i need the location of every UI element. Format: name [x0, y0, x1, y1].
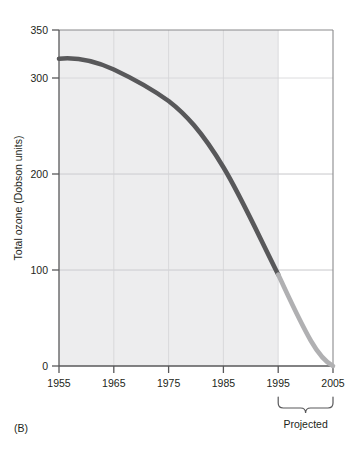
y-tick-label-300: 300	[30, 72, 48, 84]
x-tick-label-1995: 1995	[267, 377, 291, 389]
y-tick-label-350: 350	[30, 24, 48, 36]
x-axis-ticks	[59, 366, 333, 373]
panel-label: (B)	[14, 422, 28, 434]
y-axis-title: Total ozone (Dobson units)	[12, 136, 24, 261]
ozone-depletion-line-chart: 350 300 200 100 0 1955 1965 1975 1985 19…	[0, 0, 362, 455]
y-axis-ticks	[52, 30, 59, 366]
x-tick-label-2005: 2005	[321, 377, 345, 389]
y-tick-label-100: 100	[30, 264, 48, 276]
projected-bracket	[278, 397, 333, 413]
projection-band-background	[278, 30, 333, 366]
x-tick-label-1965: 1965	[102, 377, 126, 389]
x-tick-label-1955: 1955	[47, 377, 71, 389]
x-tick-label-1985: 1985	[212, 377, 236, 389]
y-tick-label-0: 0	[42, 360, 48, 372]
projected-bracket-label: Projected	[283, 418, 328, 430]
figure-panel-b: 350 300 200 100 0 1955 1965 1975 1985 19…	[0, 0, 362, 455]
x-tick-label-1975: 1975	[157, 377, 181, 389]
y-tick-label-200: 200	[30, 168, 48, 180]
